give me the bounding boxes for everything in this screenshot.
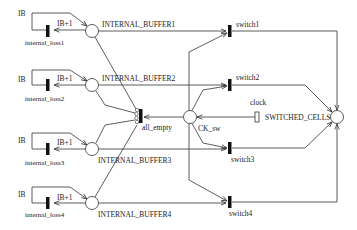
- inhibitor-arc-buffer2: [96, 91, 135, 113]
- inhibitor-dot-3: [135, 116, 138, 119]
- arc-label-ib-plus-1: IB+1: [57, 74, 73, 83]
- transition-internal-loss1[interactable]: [46, 25, 50, 37]
- arc-label-ib: IB: [18, 9, 26, 18]
- buffer1-group: IB IB+1 internal_loss1 INTERNAL_BUFFER1: [18, 9, 226, 47]
- transition-switch4[interactable]: [228, 196, 232, 208]
- arc-switch3-to-switched-cells: [232, 122, 332, 148]
- arc-label-ib-plus-1: IB+1: [57, 19, 73, 28]
- inhibitor-arc-buffer3: [96, 120, 135, 143]
- petri-net-diagram: IB IB+1 internal_loss1 INTERNAL_BUFFER1 …: [0, 0, 357, 230]
- switched-cells-group: SWITCHED_CELLS: [265, 111, 344, 124]
- inhibitor-arc-buffer1: [95, 37, 136, 109]
- transition-switch2[interactable]: [228, 79, 232, 91]
- inhibitor-dot-4: [135, 120, 138, 123]
- transition-all-empty[interactable]: [139, 109, 143, 123]
- label-switch1: switch1: [236, 20, 260, 29]
- buffer2-group: IB IB+1 internal_loss2 INTERNAL_BUFFER2: [18, 70, 226, 103]
- arc-cksw-to-switch2: [192, 86, 227, 111]
- arc-cksw-to-switch4: [189, 124, 227, 202]
- label-clock: clock: [250, 98, 266, 107]
- label-switched-cells: SWITCHED_CELLS: [265, 113, 330, 122]
- arc-label-ib: IB: [18, 75, 26, 84]
- arc-label-ib: IB: [18, 136, 26, 145]
- label-internal-buffer1: INTERNAL_BUFFER1: [102, 20, 176, 29]
- transition-clock[interactable]: [255, 112, 259, 122]
- arc-label-ib: IB: [18, 190, 26, 199]
- arc-label-ib-plus-1: IB+1: [57, 138, 73, 147]
- place-ck-sw[interactable]: [184, 111, 197, 124]
- label-internal-loss2: internal_loss2: [25, 95, 65, 103]
- label-switch4: switch4: [229, 209, 253, 218]
- label-internal-loss4: internal_loss4: [25, 211, 65, 219]
- label-switch2: switch2: [236, 73, 260, 82]
- label-internal-buffer2: INTERNAL_BUFFER2: [102, 74, 176, 83]
- label-internal-buffer4: INTERNAL_BUFFER4: [98, 210, 172, 219]
- buffer4-group: IB IB+1 internal_loss4 INTERNAL_BUFFER4: [18, 187, 226, 219]
- place-switched-cells[interactable]: [331, 111, 344, 124]
- transition-internal-loss2[interactable]: [46, 79, 50, 91]
- arc-label-ib-plus-1: IB+1: [57, 193, 73, 202]
- clock-group: clock: [197, 98, 266, 122]
- arc-switch2-to-switched-cells: [232, 85, 332, 112]
- label-ck-sw: CK_sw: [198, 124, 221, 133]
- arc-cksw-to-switch1: [189, 33, 227, 111]
- transition-internal-loss3[interactable]: [46, 143, 50, 155]
- arc-switch1-to-switched-cells: [232, 31, 337, 110]
- transition-switch3[interactable]: [228, 142, 232, 154]
- label-internal-buffer3: INTERNAL_BUFFER3: [98, 156, 172, 165]
- label-internal-loss3: internal_loss3: [25, 159, 65, 167]
- inhibitor-dot-1: [135, 108, 138, 111]
- label-switch3: switch3: [231, 155, 255, 164]
- transition-internal-loss4[interactable]: [46, 197, 50, 209]
- label-internal-loss1: internal_loss1: [25, 39, 65, 47]
- label-all-empty: all_empty: [142, 123, 172, 132]
- place-internal-buffer1[interactable]: [86, 25, 99, 38]
- inhibitor-dot-2: [135, 112, 138, 115]
- place-internal-buffer3[interactable]: [86, 143, 99, 156]
- place-internal-buffer2[interactable]: [86, 79, 99, 92]
- place-internal-buffer4[interactable]: [86, 197, 99, 210]
- transition-switch1[interactable]: [228, 25, 232, 37]
